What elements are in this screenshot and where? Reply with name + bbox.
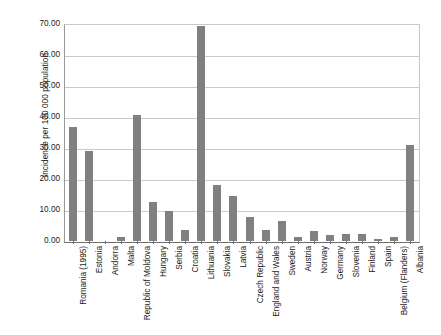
x-axis-tick-label: Croatia	[190, 246, 201, 335]
bar	[197, 26, 205, 241]
x-axis-tick-label: Austria	[303, 246, 314, 335]
x-axis-tick-label: Slovakia	[222, 246, 233, 335]
bar-slot	[129, 24, 145, 241]
bar	[149, 202, 157, 241]
x-axis-tick-label: Republic of Moldova	[142, 246, 153, 335]
bar-slot	[145, 24, 161, 241]
y-axis-tick-labels: 70.0060.0050.0040.0030.0020.0010.000.00	[22, 0, 60, 335]
bar-series	[65, 24, 418, 241]
x-axis-tick-mark	[346, 241, 347, 244]
bar	[310, 231, 318, 241]
bar-chart: Incidence per 100 000 population 70.0060…	[0, 0, 441, 335]
x-axis-category-label: Lithuania	[206, 246, 217, 335]
x-axis-category-label: Serbia	[174, 246, 185, 335]
x-axis-tick-label: Malta	[126, 246, 137, 335]
x-axis-category-label: England and Wales	[271, 246, 282, 335]
bar-slot	[322, 24, 338, 241]
bar-slot	[386, 24, 402, 241]
x-axis-tick-mark	[153, 241, 154, 244]
bar-slot	[258, 24, 274, 241]
x-axis-category-label: Estonia	[94, 246, 105, 335]
y-axis-tick-label: 10.00	[26, 206, 60, 214]
bar	[229, 196, 237, 241]
bar	[342, 234, 350, 241]
x-axis-tick-label: Latvia	[238, 246, 249, 335]
y-axis-tick-label: 30.00	[26, 144, 60, 152]
x-axis-tick-mark	[185, 241, 186, 244]
x-axis-tick-mark	[410, 241, 411, 244]
x-axis-category-label: Belgium (Flanders)	[399, 246, 410, 335]
x-axis-tick-label: Finland	[367, 246, 378, 335]
x-axis-category-label: Malta	[126, 246, 137, 335]
x-axis-tick-label: Hungary	[158, 246, 169, 335]
bar	[85, 151, 93, 241]
x-axis-tick-mark	[314, 241, 315, 244]
x-axis-category-label: Hungary	[158, 246, 169, 335]
bar-slot	[65, 24, 81, 241]
x-axis-category-label: Andorra	[110, 246, 121, 335]
x-axis-tick-mark	[233, 241, 234, 244]
x-axis-tick-mark	[266, 241, 267, 244]
bar-slot	[402, 24, 418, 241]
x-axis-category-label: Slovenia	[351, 246, 362, 335]
bar-slot	[338, 24, 354, 241]
y-axis-tick-label: 0.00	[26, 237, 60, 245]
bar	[406, 145, 414, 241]
x-axis-category-label: Republic of Moldova	[142, 246, 153, 335]
x-axis-tick-label: Germany	[335, 246, 346, 335]
bar	[358, 234, 366, 241]
x-axis-tick-mark	[394, 241, 395, 244]
y-axis-tick-label: 50.00	[26, 82, 60, 90]
x-axis-tick-labels: Romania (1995)EstoniaAndorraMaltaRepubli…	[65, 246, 418, 335]
x-axis-category-label: Austria	[303, 246, 314, 335]
x-axis-tick-mark	[217, 241, 218, 244]
x-axis-category-label: Romania (1995)	[78, 246, 89, 335]
x-axis-tick-label: Albania	[415, 246, 426, 335]
bar	[262, 230, 270, 241]
x-axis-category-label: Spain	[383, 246, 394, 335]
bar-slot	[225, 24, 241, 241]
x-axis-tick-label: England and Wales	[271, 246, 282, 335]
x-axis-tick-label: Spain	[383, 246, 394, 335]
x-axis-tick-label: Estonia	[94, 246, 105, 335]
x-axis-tick-mark	[250, 241, 251, 244]
x-axis-category-label: Sweden	[287, 246, 298, 335]
x-axis-tick-mark	[282, 241, 283, 244]
bar-slot	[81, 24, 97, 241]
bar-slot	[354, 24, 370, 241]
x-axis-tick-label: Lithuania	[206, 246, 217, 335]
x-axis-tick-label: Andorra	[110, 246, 121, 335]
x-axis-tick-mark	[73, 241, 74, 244]
bar	[246, 217, 254, 241]
x-axis-category-label: Finland	[367, 246, 378, 335]
bar-slot	[274, 24, 290, 241]
x-axis-tick-mark	[105, 241, 106, 244]
x-axis-tick-mark	[137, 241, 138, 244]
x-axis-tick-mark	[362, 241, 363, 244]
x-axis-tick-label: Serbia	[174, 246, 185, 335]
y-axis-tick-label: 70.00	[26, 20, 60, 28]
x-axis-category-label: Slovakia	[222, 246, 233, 335]
x-axis-tick-mark	[169, 241, 170, 244]
x-axis-tick-mark	[378, 241, 379, 244]
x-axis-tick-mark	[89, 241, 90, 244]
x-axis-tick-label: Norway	[319, 246, 330, 335]
bar-slot	[97, 24, 113, 241]
bar	[213, 185, 221, 241]
x-axis-category-label: Albania	[415, 246, 426, 335]
x-axis-category-label: Latvia	[238, 246, 249, 335]
bar-slot	[177, 24, 193, 241]
bar	[278, 221, 286, 241]
x-axis-tick-label: Czech Republic	[255, 246, 266, 335]
x-axis-tick-mark	[201, 241, 202, 244]
x-axis-category-label: Czech Republic	[255, 246, 266, 335]
x-axis-tick-label: Belgium (Flanders)	[399, 246, 410, 335]
bar	[69, 127, 77, 241]
x-axis-tick-mark	[330, 241, 331, 244]
bar	[165, 211, 173, 241]
x-axis-tick-label: Sweden	[287, 246, 298, 335]
bar	[133, 115, 141, 241]
x-axis-tick-label: Slovenia	[351, 246, 362, 335]
x-axis-category-label: Norway	[319, 246, 330, 335]
x-axis-tick-label: Romania (1995)	[78, 246, 89, 335]
